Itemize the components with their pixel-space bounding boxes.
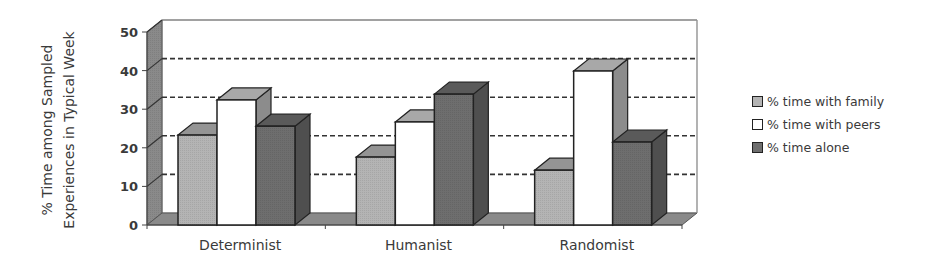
legend-item: % time alone	[752, 136, 884, 159]
legend-label: % time with family	[767, 94, 884, 109]
y-axis-title-line: % Time among Sampled	[39, 45, 55, 216]
legend-swatch-icon	[752, 142, 763, 153]
legend-swatch-icon	[752, 119, 763, 130]
legend-label: % time alone	[767, 140, 849, 155]
bar	[256, 114, 310, 225]
bar	[613, 130, 667, 225]
x-axis: DeterministHumanistRandomist	[147, 225, 682, 253]
x-category-label: Humanist	[385, 237, 453, 253]
legend: % time with family% time with peers% tim…	[752, 90, 884, 159]
y-tick-label: 40	[120, 64, 138, 79]
y-tick-label: 10	[120, 179, 138, 194]
legend-swatch-icon	[752, 96, 763, 107]
x-category-label: Determinist	[199, 237, 282, 253]
bar	[434, 82, 488, 225]
y-tick-label: 0	[129, 218, 138, 233]
y-axis-title-line: Experiences in Typical Week	[61, 30, 77, 228]
x-category-label: Randomist	[560, 237, 635, 253]
y-tick-label: 20	[120, 141, 138, 156]
y-tick-label: 30	[120, 102, 138, 117]
legend-item: % time with family	[752, 90, 884, 113]
y-tick-label: 50	[120, 25, 138, 40]
y-axis-title: % Time among SampledExperiences in Typic…	[39, 30, 77, 228]
legend-item: % time with peers	[752, 113, 884, 136]
legend-label: % time with peers	[767, 117, 881, 132]
